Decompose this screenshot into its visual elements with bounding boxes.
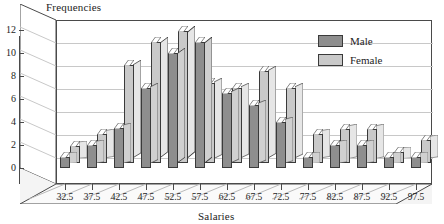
- bar-side-face: [106, 129, 114, 158]
- bar-top-face: [357, 140, 367, 146]
- bar-side-face: [79, 141, 87, 158]
- bar-side-face: [160, 37, 168, 158]
- bar-side-face: [204, 37, 212, 164]
- bar-male-97.5: [411, 157, 421, 169]
- bar-side-face: [187, 26, 195, 158]
- bar-top-face: [97, 129, 107, 135]
- bar-side-face: [393, 152, 401, 164]
- bar-side-face: [349, 124, 357, 159]
- bar-top-face: [303, 152, 313, 158]
- bar-male-77.5: [303, 157, 313, 169]
- y-axis-line: [19, 36, 20, 184]
- bar-top-face: [60, 152, 70, 158]
- bar-side-face: [295, 83, 303, 158]
- y-tick-label-12: 12: [0, 24, 16, 35]
- bar-male-62.5: [222, 93, 232, 168]
- bar-side-face: [403, 147, 411, 159]
- x-tick-82.5: [335, 184, 336, 190]
- legend-label-male: Male: [350, 35, 373, 47]
- bar-side-face: [214, 78, 222, 159]
- bar-top-face: [411, 152, 421, 158]
- bar-top-face: [168, 48, 178, 54]
- x-tick-label-87.5: 87.5: [354, 192, 371, 202]
- bar-top-face: [151, 37, 161, 43]
- y-tick-4: [19, 122, 24, 123]
- bar-top-face: [87, 140, 97, 146]
- bar-top-face: [195, 37, 205, 43]
- left-depth-wall: [20, 4, 56, 184]
- bar-side-face: [241, 83, 249, 158]
- bar-side-face: [150, 83, 158, 164]
- bar-top-face: [384, 152, 394, 158]
- y-tick-label-10: 10: [0, 47, 16, 58]
- frequency-histogram-chart: Frequencies: [0, 0, 444, 224]
- y-tick-label-8: 8: [0, 70, 16, 81]
- bar-front-face: [222, 93, 232, 168]
- bar-top-face: [222, 88, 232, 94]
- bar-side-face: [133, 60, 141, 158]
- x-tick-72.5: [281, 184, 282, 190]
- y-tick-10: [19, 53, 24, 54]
- bar-top-face: [70, 141, 80, 147]
- bar-front-face: [249, 105, 259, 168]
- bar-side-face: [430, 135, 438, 158]
- x-tick-67.5: [254, 184, 255, 190]
- bar-side-face: [258, 100, 266, 163]
- bar-top-face: [276, 117, 286, 123]
- bar-top-face: [249, 100, 259, 106]
- bar-male-72.5: [276, 122, 286, 168]
- x-tick-92.5: [389, 184, 390, 190]
- x-tick-label-92.5: 92.5: [381, 192, 398, 202]
- x-tick-label-57.5: 57.5: [192, 192, 209, 202]
- y-tick-label-2: 2: [0, 139, 16, 150]
- legend-item-female[interactable]: Female: [318, 50, 382, 69]
- bar-side-face: [420, 152, 428, 164]
- bar-front-face: [60, 157, 70, 169]
- bar-side-face: [339, 140, 347, 163]
- bar-male-57.5: [195, 42, 205, 169]
- y-tick-0: [19, 168, 24, 169]
- x-tick-label-72.5: 72.5: [273, 192, 290, 202]
- y-tick-label-0: 0: [0, 162, 16, 173]
- x-tick-label-42.5: 42.5: [111, 192, 128, 202]
- x-tick-label-47.5: 47.5: [138, 192, 155, 202]
- x-tick-87.5: [362, 184, 363, 190]
- legend-item-male[interactable]: Male: [318, 31, 382, 50]
- bar-front-face: [411, 157, 421, 169]
- y-tick-6: [19, 99, 24, 100]
- y-tick-8: [19, 76, 24, 77]
- bar-side-face: [376, 124, 384, 159]
- x-tick-62.5: [227, 184, 228, 190]
- bar-front-face: [141, 88, 151, 169]
- bar-male-52.5: [168, 53, 178, 168]
- x-tick-52.5: [173, 184, 174, 190]
- bar-front-face: [168, 53, 178, 168]
- bar-front-face: [276, 122, 286, 168]
- bar-top-face: [124, 60, 134, 66]
- bar-male-47.5: [141, 88, 151, 169]
- y-tick-label-4: 4: [0, 116, 16, 127]
- bar-top-face: [421, 135, 431, 141]
- bar-side-face: [69, 152, 77, 164]
- x-tick-label-77.5: 77.5: [300, 192, 317, 202]
- x-tick-47.5: [146, 184, 147, 190]
- x-tick-label-82.5: 82.5: [327, 192, 344, 202]
- bar-side-face: [322, 129, 330, 158]
- bar-front-face: [87, 145, 97, 168]
- bar-top-face: [141, 83, 151, 89]
- x-tick-label-37.5: 37.5: [84, 192, 101, 202]
- bar-side-face: [366, 140, 374, 163]
- bar-male-92.5: [384, 157, 394, 169]
- bar-top-face: [178, 26, 188, 32]
- bar-side-face: [312, 152, 320, 164]
- x-tick-label-67.5: 67.5: [246, 192, 263, 202]
- x-tick-57.5: [200, 184, 201, 190]
- x-tick-label-97.5: 97.5: [408, 192, 425, 202]
- y-tick-2: [19, 145, 24, 146]
- bar-front-face: [330, 145, 340, 168]
- bar-side-face: [268, 66, 276, 158]
- bar-top-face: [313, 129, 323, 135]
- legend-swatch-female: [318, 54, 343, 66]
- legend-label-female: Female: [350, 54, 382, 66]
- bar-side-face: [177, 48, 185, 163]
